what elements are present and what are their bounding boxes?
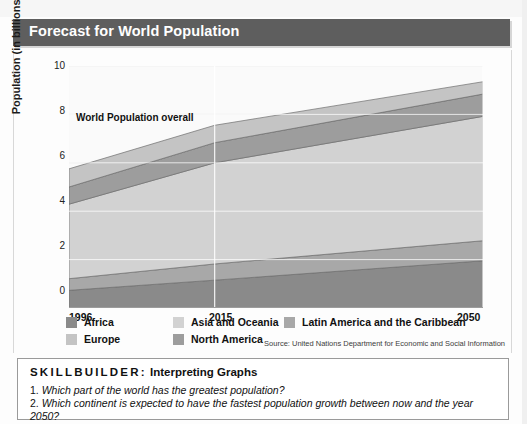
skillbuilder-question-2: 2. Which continent is expected to have t… (30, 397, 500, 423)
y-tick-4: 4 (43, 196, 65, 206)
legend-swatch-latin-america-and-the-caribbean (284, 317, 295, 328)
y-tick-6: 6 (43, 151, 65, 161)
y-tick-8: 8 (43, 106, 65, 116)
skillbuilder-question-1-text: Which part of the world has the greatest… (42, 384, 285, 396)
plot-area (69, 66, 483, 308)
page-title: Forecast for World Population (29, 23, 239, 39)
chart-source: Source: United Nations Department for Ec… (264, 339, 505, 348)
skillbuilder-box: SKILLBUILDER: Interpreting Graphs 1. Whi… (17, 358, 509, 420)
chart-title-bar: Forecast for World Population (13, 19, 510, 46)
legend-label-north-america: North America (191, 333, 263, 345)
legend-item-europe: Europe (66, 333, 120, 345)
stacked-area-chart (69, 66, 483, 308)
y-axis-title-label: Population (in billions) (10, 0, 22, 130)
legend-label-asia-and-oceania: Asia and Oceania (191, 316, 279, 328)
skillbuilder-label: SKILLBUILDER: (30, 366, 147, 378)
page-top-strip (0, 0, 527, 17)
legend-item-asia-and-oceania: Asia and Oceania (173, 316, 279, 328)
skillbuilder-heading: SKILLBUILDER: Interpreting Graphs (30, 366, 257, 378)
legend-label-europe: Europe (84, 333, 120, 345)
legend-swatch-north-america (173, 334, 184, 345)
y-tick-0: 0 (43, 286, 65, 296)
y-tick-2: 2 (43, 241, 65, 251)
legend-item-north-america: North America (173, 333, 263, 345)
skillbuilder-question-1: 1. Which part of the world has the great… (30, 384, 500, 397)
legend-swatch-africa (66, 317, 77, 328)
page-right-edge (522, 0, 527, 424)
legend-swatch-europe (66, 334, 77, 345)
figure-root: Forecast for World Population Population… (0, 0, 527, 424)
skillbuilder-title: Interpreting Graphs (150, 366, 257, 378)
legend-item-latin-america-and-the-caribbean: Latin America and the Caribbean (284, 316, 466, 328)
skillbuilder-question-1-number: 1. (30, 384, 39, 396)
skillbuilder-question-2-number: 2. (30, 397, 39, 409)
y-axis-title: Population (in billions) (10, 0, 26, 130)
legend-label-latin-america-and-the-caribbean: Latin America and the Caribbean (302, 316, 466, 328)
legend-item-africa: Africa (66, 316, 114, 328)
chart-annotation: World Population overall (76, 112, 194, 123)
legend-swatch-asia-and-oceania (173, 317, 184, 328)
legend-label-africa: Africa (84, 316, 114, 328)
y-tick-10: 10 (43, 61, 65, 71)
skillbuilder-question-2-text: Which continent is expected to have the … (30, 397, 473, 422)
y-axis-ticks: 10 8 6 4 2 0 (39, 50, 65, 325)
chart-figure: Population (in billions) 10 8 6 4 2 0 Wo… (13, 50, 512, 353)
